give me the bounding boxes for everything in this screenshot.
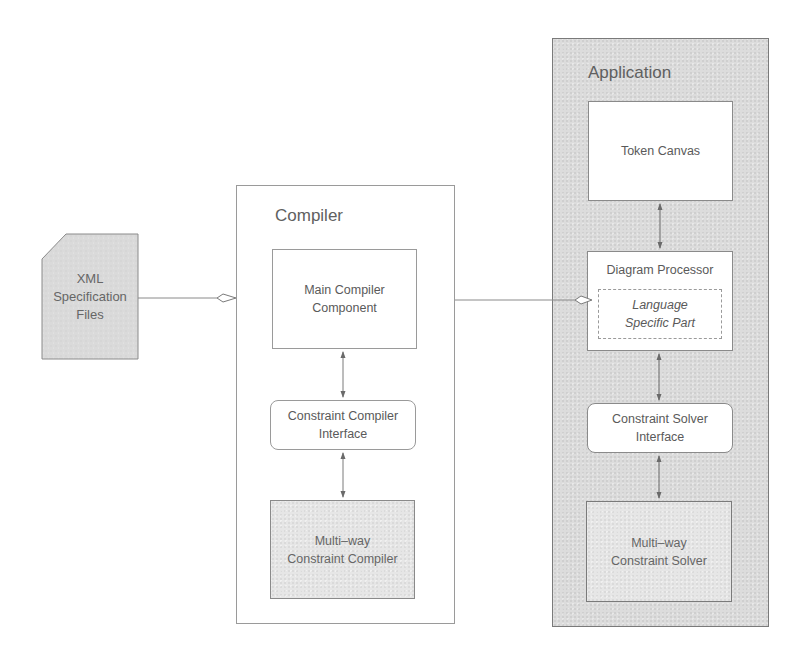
xml-specification-files: XML Specification Files — [42, 234, 138, 359]
language-part-label-2: Specific Part — [625, 314, 695, 332]
main-compiler-component: Main Compiler Component — [272, 249, 417, 349]
mw-compiler-label-1: Multi–way — [315, 532, 371, 550]
language-specific-part: Language Specific Part — [598, 289, 722, 339]
cs-interface-label-1: Constraint Solver — [612, 410, 708, 428]
constraint-solver-interface: Constraint Solver Interface — [587, 403, 733, 453]
compiler-title: Compiler — [275, 206, 343, 226]
constraint-compiler-interface: Constraint Compiler Interface — [270, 400, 416, 450]
xml-label-line-1: XML — [77, 270, 104, 288]
mw-solver-label-1: Multi–way — [631, 534, 687, 552]
xml-label-line-3: Files — [76, 306, 103, 324]
mw-solver-label-2: Constraint Solver — [611, 552, 707, 570]
aggregation-diamond-icon — [217, 294, 236, 302]
xml-label-line-2: Specification — [53, 288, 127, 306]
token-canvas-label: Token Canvas — [621, 142, 700, 160]
cs-interface-label-2: Interface — [636, 428, 685, 446]
diagram-processor: Diagram Processor Language Specific Part — [587, 251, 733, 351]
application-title: Application — [588, 63, 671, 83]
language-part-label-1: Language — [632, 296, 688, 314]
multiway-constraint-solver: Multi–way Constraint Solver — [586, 501, 732, 602]
token-canvas: Token Canvas — [588, 101, 733, 201]
cc-interface-label-2: Interface — [319, 425, 368, 443]
main-compiler-label-1: Main Compiler — [304, 281, 385, 299]
cc-interface-label-1: Constraint Compiler — [288, 407, 398, 425]
mw-compiler-label-2: Constraint Compiler — [287, 550, 397, 568]
diagram-processor-label: Diagram Processor — [588, 263, 732, 277]
main-compiler-label-2: Component — [312, 299, 377, 317]
multiway-constraint-compiler: Multi–way Constraint Compiler — [270, 500, 415, 599]
